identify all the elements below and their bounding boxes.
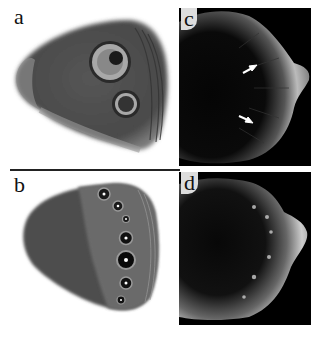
panel-b: b [0,172,178,339]
panel-c: c [179,8,311,166]
micrograph-c [179,8,311,166]
wing-b-illustration [0,172,178,339]
panel-divider [10,169,180,171]
panel-label-c: c [181,8,197,30]
panel-label-a: a [14,6,24,28]
wing-a-illustration [0,0,178,168]
micrograph-d [179,172,311,325]
panel-label-b: b [14,174,25,196]
panel-d: d [179,172,311,325]
panel-a: a [0,0,178,168]
